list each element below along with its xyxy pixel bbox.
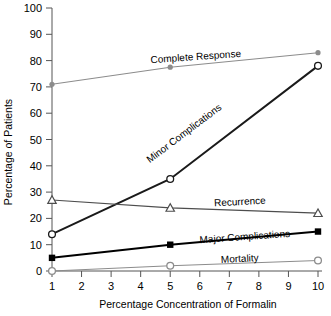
line-chart: 1009080706050403020100 12345678910 Compl… (0, 0, 331, 316)
x-tick-label: 9 (285, 280, 291, 292)
y-tick-label: 30 (30, 186, 42, 198)
data-point-marker (167, 262, 174, 269)
x-tick-label: 6 (197, 280, 203, 292)
x-tick-label: 8 (256, 280, 262, 292)
data-point-marker (49, 255, 55, 261)
x-axis-title: Percentage Concentration of Formalin (99, 298, 277, 310)
series-label-minor-complications: Minor Complications (144, 102, 223, 165)
data-point-marker (315, 50, 320, 55)
series-line (52, 260, 318, 271)
series-line (52, 200, 318, 213)
chart-container: 1009080706050403020100 12345678910 Compl… (0, 0, 331, 316)
series-labels: Complete Response Minor Complications Re… (144, 48, 290, 265)
y-tick-label: 70 (30, 81, 42, 93)
y-tick-label: 90 (30, 28, 42, 40)
x-tick-label: 2 (78, 280, 84, 292)
y-tick-label: 0 (36, 265, 42, 277)
data-point-marker (49, 231, 56, 238)
data-point-marker (315, 257, 322, 264)
series-mortality (49, 257, 322, 274)
x-tick-label: 1 (49, 280, 55, 292)
series-label-mortality: Mortality (221, 252, 259, 265)
data-point-marker (49, 268, 56, 275)
x-tick-label: 3 (108, 280, 114, 292)
x-tick-label: 4 (138, 280, 144, 292)
series-layer (48, 50, 322, 274)
data-point-marker (167, 176, 174, 183)
data-point-marker (315, 228, 321, 234)
y-tick-label: 60 (30, 107, 42, 119)
series-label-major-complications: Major Complications (199, 228, 290, 245)
series-label-recurrence: Recurrence (214, 195, 267, 209)
y-tick-label: 10 (30, 239, 42, 251)
y-tick-label: 20 (30, 212, 42, 224)
x-axis-ticks: 12345678910 (49, 271, 324, 292)
data-point-marker (168, 65, 173, 70)
y-tick-label: 80 (30, 55, 42, 67)
data-point-marker (315, 62, 322, 69)
data-point-marker (48, 196, 56, 204)
x-tick-label: 10 (312, 280, 324, 292)
y-tick-label: 50 (30, 134, 42, 146)
series-label-complete-response: Complete Response (150, 48, 242, 65)
data-point-marker (49, 82, 54, 87)
series-recurrence (48, 196, 322, 217)
data-point-marker (167, 242, 173, 248)
y-axis-title: Percentage of Patients (2, 99, 14, 205)
y-tick-label: 40 (30, 160, 42, 172)
y-axis-ticks: 1009080706050403020100 (24, 2, 52, 277)
x-tick-label: 5 (167, 280, 173, 292)
y-tick-label: 100 (24, 2, 42, 14)
x-tick-label: 7 (226, 280, 232, 292)
